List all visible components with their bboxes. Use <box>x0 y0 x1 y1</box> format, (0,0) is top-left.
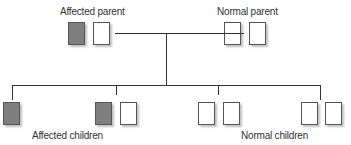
mating-line <box>115 33 244 34</box>
child-4-allele-2 <box>325 102 342 125</box>
child-4-drop-line <box>320 85 321 100</box>
normal-parent-label: Normal parent <box>217 6 278 17</box>
affected-parent-normal-allele <box>93 22 110 45</box>
child-2-affected-allele <box>95 102 112 125</box>
sibship-line <box>12 85 321 86</box>
normal-parent-allele-2 <box>249 22 266 45</box>
child-3-drop-line <box>218 85 219 95</box>
child-3-allele-2 <box>223 102 240 125</box>
child-4-allele-1 <box>301 102 318 125</box>
child-2-drop-line <box>116 85 117 95</box>
child-3-allele-1 <box>198 102 215 125</box>
affected-children-label: Affected children <box>32 130 103 141</box>
affected-parent-affected-allele <box>68 22 85 45</box>
affected-parent-label: Affected parent <box>60 6 125 17</box>
child-1-affected-allele <box>3 102 20 125</box>
normal-children-label: Normal children <box>241 130 308 141</box>
descent-line <box>166 33 167 85</box>
child-2-normal-allele <box>120 102 137 125</box>
child-1-drop-line <box>12 85 13 100</box>
